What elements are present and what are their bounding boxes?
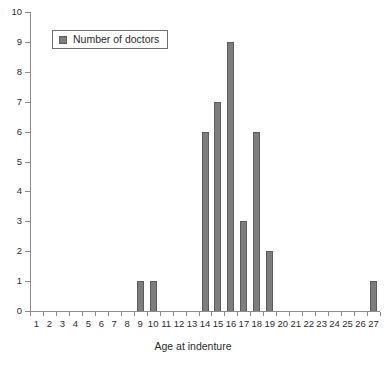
x-axis-title: Age at indenture bbox=[0, 340, 386, 352]
x-axis-tick-label: 9 bbox=[134, 318, 147, 329]
x-axis-tick bbox=[186, 312, 187, 316]
x-axis-tick bbox=[250, 312, 251, 316]
y-axis-tick bbox=[25, 12, 30, 13]
x-axis-tick bbox=[160, 312, 161, 316]
y-axis-tick bbox=[25, 42, 30, 43]
bar bbox=[202, 132, 209, 311]
x-axis-tick bbox=[134, 312, 135, 316]
y-axis-tick bbox=[25, 72, 30, 73]
x-axis-tick-label: 21 bbox=[289, 318, 302, 329]
y-axis-tick-label: 8 bbox=[0, 67, 22, 77]
x-axis-tick bbox=[341, 312, 342, 316]
x-axis-tick bbox=[30, 312, 31, 316]
y-axis-tick bbox=[25, 281, 30, 282]
x-axis-tick-label: 15 bbox=[211, 318, 224, 329]
x-axis-tick-label: 26 bbox=[354, 318, 367, 329]
x-axis-tick bbox=[367, 312, 368, 316]
x-axis-tick bbox=[95, 312, 96, 316]
legend-label-number-of-doctors: Number of doctors bbox=[73, 34, 159, 45]
y-axis-tick bbox=[25, 191, 30, 192]
x-axis-tick-label: 24 bbox=[328, 318, 341, 329]
x-axis-tick bbox=[147, 312, 148, 316]
y-axis-tick-label: 4 bbox=[0, 186, 22, 196]
x-axis-tick bbox=[237, 312, 238, 316]
x-axis-tick-label: 20 bbox=[276, 318, 289, 329]
x-axis-tick bbox=[328, 312, 329, 316]
x-axis-tick-label: 7 bbox=[108, 318, 121, 329]
x-axis-tick-label: 22 bbox=[302, 318, 315, 329]
y-axis-tick bbox=[25, 221, 30, 222]
y-axis-tick-label: 9 bbox=[0, 37, 22, 47]
bar bbox=[150, 281, 157, 311]
x-axis-tick bbox=[354, 312, 355, 316]
y-axis-tick-label: 10 bbox=[0, 7, 22, 17]
x-axis-tick bbox=[173, 312, 174, 316]
x-axis-tick bbox=[380, 312, 381, 316]
bar bbox=[253, 132, 260, 311]
x-axis-tick bbox=[199, 312, 200, 316]
x-axis-tick-label: 27 bbox=[367, 318, 380, 329]
x-axis-tick-label: 16 bbox=[224, 318, 237, 329]
x-axis-tick-label: 1 bbox=[30, 318, 43, 329]
x-axis-tick-label: 14 bbox=[199, 318, 212, 329]
x-axis-tick bbox=[56, 312, 57, 316]
bar bbox=[266, 251, 273, 311]
x-axis-tick bbox=[108, 312, 109, 316]
x-axis-tick-label: 8 bbox=[121, 318, 134, 329]
x-axis-tick-label: 13 bbox=[186, 318, 199, 329]
y-axis-tick-label: 7 bbox=[0, 97, 22, 107]
y-axis-tick bbox=[25, 162, 30, 163]
x-axis-tick bbox=[69, 312, 70, 316]
x-axis-tick bbox=[121, 312, 122, 316]
bar bbox=[240, 221, 247, 311]
bar bbox=[227, 42, 234, 311]
legend-swatch-icon bbox=[59, 36, 67, 44]
y-axis-tick-label: 0 bbox=[0, 306, 22, 316]
y-axis-tick-label: 1 bbox=[0, 276, 22, 286]
y-axis-tick-label: 6 bbox=[0, 127, 22, 137]
x-axis-tick-label: 10 bbox=[147, 318, 160, 329]
bar-chart: 012345678910 123456789101112131415161718… bbox=[0, 0, 386, 365]
x-axis-tick bbox=[289, 312, 290, 316]
x-axis-tick-label: 25 bbox=[341, 318, 354, 329]
y-axis-tick-label: 3 bbox=[0, 216, 22, 226]
x-axis-tick bbox=[82, 312, 83, 316]
x-axis-tick bbox=[315, 312, 316, 316]
y-axis-tick bbox=[25, 102, 30, 103]
bar bbox=[370, 281, 377, 311]
bar bbox=[137, 281, 144, 311]
x-axis-tick bbox=[302, 312, 303, 316]
x-axis-tick-label: 4 bbox=[69, 318, 82, 329]
x-axis-tick-label: 6 bbox=[95, 318, 108, 329]
x-axis-tick-label: 3 bbox=[56, 318, 69, 329]
chart-legend: Number of doctors bbox=[52, 30, 168, 49]
x-axis-tick-label: 19 bbox=[263, 318, 276, 329]
y-axis-tick bbox=[25, 132, 30, 133]
x-axis-tick bbox=[276, 312, 277, 316]
x-axis-tick bbox=[263, 312, 264, 316]
x-axis-tick-label: 18 bbox=[250, 318, 263, 329]
y-axis-tick bbox=[25, 251, 30, 252]
x-axis-tick-label: 17 bbox=[237, 318, 250, 329]
x-axis-tick bbox=[224, 312, 225, 316]
x-axis-tick-label: 23 bbox=[315, 318, 328, 329]
x-axis-tick-label: 12 bbox=[173, 318, 186, 329]
y-axis-line bbox=[30, 12, 31, 312]
y-axis-tick-label: 2 bbox=[0, 246, 22, 256]
x-axis-tick-label: 11 bbox=[160, 318, 173, 329]
y-axis-tick-label: 5 bbox=[0, 157, 22, 167]
x-axis-tick-label: 5 bbox=[82, 318, 95, 329]
x-axis-tick bbox=[211, 312, 212, 316]
x-axis-tick-label: 2 bbox=[43, 318, 56, 329]
x-axis-tick bbox=[43, 312, 44, 316]
bar bbox=[214, 102, 221, 311]
